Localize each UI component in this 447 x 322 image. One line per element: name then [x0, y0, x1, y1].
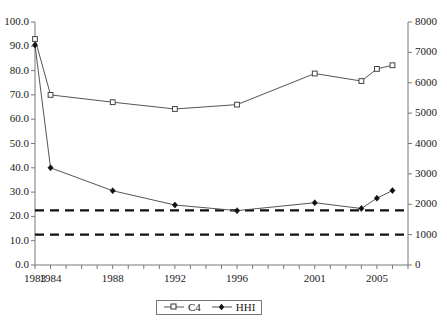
legend-label-c4: C4 — [188, 302, 201, 313]
data-point-marker — [374, 195, 379, 201]
left-tick-label: 0.0 — [0, 259, 29, 270]
data-point-marker — [359, 206, 364, 212]
right-axis-ticks — [408, 22, 412, 265]
data-point-marker — [235, 102, 240, 107]
right-tick-label: 0 — [415, 259, 447, 270]
data-point-marker — [312, 200, 317, 206]
x-tick-label: 1992 — [160, 273, 190, 284]
right-tick-label: 4000 — [415, 138, 447, 149]
x-tick-label: 2005 — [362, 273, 392, 284]
chart-legend: C4 HHI — [156, 300, 262, 315]
data-point-marker — [110, 100, 115, 105]
x-axis-ticks — [35, 265, 408, 269]
reference-lines — [35, 210, 408, 234]
left-tick-label: 90.0 — [0, 40, 29, 51]
chart-container: 0.010.020.030.040.050.060.070.080.090.01… — [0, 0, 447, 322]
data-point-marker — [375, 66, 380, 71]
right-tick-label: 1000 — [415, 229, 447, 240]
left-tick-label: 10.0 — [0, 235, 29, 246]
x-tick-label: 1996 — [222, 273, 252, 284]
right-tick-label: 2000 — [415, 198, 447, 209]
series-line-c4 — [33, 37, 395, 112]
data-point-marker — [312, 71, 317, 76]
series-line-hhi — [32, 42, 395, 214]
left-tick-label: 30.0 — [0, 186, 29, 197]
left-tick-label: 60.0 — [0, 113, 29, 124]
left-tick-label: 40.0 — [0, 162, 29, 173]
data-point-marker — [390, 63, 395, 68]
legend-marker-hhi-icon — [211, 302, 233, 312]
data-point-marker — [48, 93, 53, 98]
left-tick-label: 20.0 — [0, 210, 29, 221]
legend-entry-c4: C4 — [163, 302, 201, 313]
left-tick-label: 100.0 — [0, 16, 29, 27]
right-tick-label: 7000 — [415, 46, 447, 57]
data-point-marker — [359, 79, 364, 84]
axis-lines — [35, 22, 408, 265]
x-tick-label: 1984 — [36, 273, 66, 284]
right-tick-label: 8000 — [415, 16, 447, 27]
legend-entry-hhi: HHI — [211, 302, 256, 313]
legend-label-hhi: HHI — [236, 302, 256, 313]
data-point-marker — [110, 188, 115, 194]
legend-marker-c4-icon — [163, 302, 185, 312]
left-tick-label: 70.0 — [0, 89, 29, 100]
data-point-marker — [172, 107, 177, 112]
data-point-marker — [390, 188, 395, 194]
left-tick-label: 80.0 — [0, 65, 29, 76]
x-tick-label: 2001 — [300, 273, 330, 284]
data-point-marker — [33, 37, 38, 42]
right-tick-label: 3000 — [415, 168, 447, 179]
right-tick-label: 5000 — [415, 107, 447, 118]
left-tick-label: 50.0 — [0, 138, 29, 149]
data-point-marker — [234, 208, 239, 214]
data-point-marker — [48, 165, 53, 171]
right-tick-label: 6000 — [415, 77, 447, 88]
data-point-marker — [172, 202, 177, 208]
x-tick-label: 1988 — [98, 273, 128, 284]
left-axis-ticks — [31, 22, 35, 265]
